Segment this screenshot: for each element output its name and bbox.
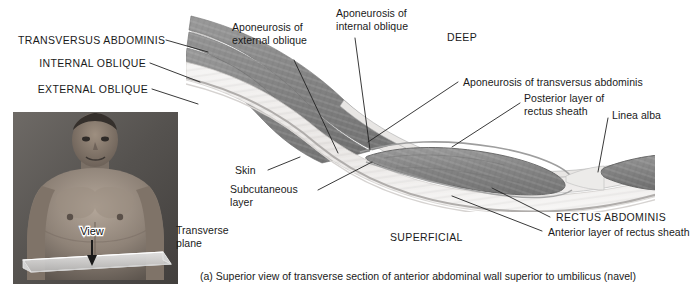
leader-external-oblique <box>152 89 198 104</box>
label-transverse-plane-line2: plane <box>176 237 229 250</box>
external-oblique-muscle <box>185 48 348 163</box>
label-external-oblique: EXTERNAL OBLIQUE <box>18 83 148 96</box>
leader-transversus-abdominis <box>166 40 208 52</box>
external-oblique-fiber-texture <box>185 48 348 163</box>
leader-subcutaneous-layer <box>318 162 372 190</box>
label-aponeurosis-internal-oblique: Aponeurosis of internal oblique <box>336 7 408 32</box>
rectus-abdominis-muscle-main <box>366 147 565 194</box>
posterior-rectus-sheath-line <box>360 142 572 178</box>
label-aponeurosis-external-oblique: Aponeurosis of external oblique <box>232 21 307 46</box>
internal-oblique-fiber-texture <box>187 32 370 158</box>
label-superficial: SUPERFICIAL <box>390 231 463 244</box>
label-internal-oblique: INTERNAL OBLIQUE <box>18 57 146 70</box>
label-transverse-plane: Transverse plane <box>176 224 229 249</box>
label-subcutaneous-layer-line1: Subcutaneous <box>230 183 298 196</box>
nipple-right <box>117 214 123 220</box>
leader-internal-oblique <box>150 63 200 82</box>
label-rectus-abdominis: RECTUS ABDOMINIS <box>556 211 666 224</box>
label-deep: DEEP <box>447 31 477 44</box>
internal-oblique-muscle <box>187 32 370 158</box>
label-aponeurosis-transversus-abdominis: Aponeurosis of transversus abdominis <box>463 76 643 89</box>
leader-lines <box>132 38 608 246</box>
label-aponeurosis-external-oblique-line1: Aponeurosis of <box>232 21 307 34</box>
label-transverse-plane-line1: Transverse <box>176 224 229 237</box>
figure-caption: (a) Superior view of transverse section … <box>200 270 636 282</box>
linea-alba-region <box>566 166 604 190</box>
figure-root: View TRANSVERSUS ABDOMINIS INTERNAL OBLI… <box>0 0 694 296</box>
torso-photograph: View <box>13 112 178 284</box>
torso-photo-svg: View <box>13 112 178 284</box>
label-aponeurosis-internal-oblique-line2: internal oblique <box>336 20 408 33</box>
label-anterior-rectus-sheath: Anterior layer of rectus sheath <box>548 226 690 239</box>
leader-rectus-abdominis <box>492 188 550 217</box>
leader-skin <box>268 157 300 170</box>
eye-right <box>101 137 109 142</box>
label-linea-alba: Linea alba <box>612 109 661 122</box>
label-posterior-rectus-sheath-line2: rectus sheath <box>524 105 604 118</box>
rectus-abdominis-muscle-second <box>601 155 660 190</box>
leader-aponeurosis-external-oblique <box>294 60 338 153</box>
label-posterior-rectus-sheath-line1: Posterior layer of <box>524 92 604 105</box>
label-subcutaneous-layer: Subcutaneous layer <box>230 183 298 208</box>
leader-posterior-rectus-sheath <box>452 103 520 147</box>
leader-aponeurosis-transversus-abdominis <box>368 82 458 142</box>
label-transversus-abdominis: TRANSVERSUS ABDOMINIS <box>18 34 164 47</box>
leader-linea-alba <box>598 118 608 172</box>
nipple-left <box>67 214 73 220</box>
view-label-text: View <box>80 225 104 237</box>
label-aponeurosis-external-oblique-line2: external oblique <box>232 34 307 47</box>
label-posterior-rectus-sheath: Posterior layer of rectus sheath <box>524 92 604 117</box>
eye-left <box>82 137 90 142</box>
leader-anterior-rectus-sheath <box>452 196 542 231</box>
anterior-rectus-sheath-line <box>366 162 572 197</box>
leader-aponeurosis-internal-oblique <box>355 38 370 150</box>
label-skin: Skin <box>235 164 256 177</box>
label-subcutaneous-layer-line2: layer <box>230 196 298 209</box>
label-aponeurosis-internal-oblique-line1: Aponeurosis of <box>336 7 408 20</box>
